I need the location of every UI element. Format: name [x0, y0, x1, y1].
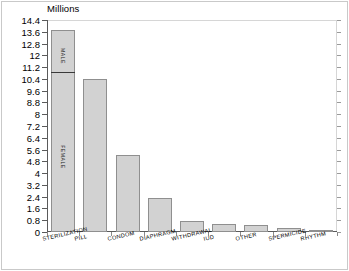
plot-top-rule — [47, 20, 337, 21]
y-tick-mark-right — [337, 185, 341, 186]
y-tick-mark — [42, 79, 47, 80]
y-tick-mark-right — [337, 67, 341, 68]
y-tick-mark-right — [337, 197, 341, 198]
y-tick-mark-right — [337, 79, 341, 80]
y-tick-mark — [42, 220, 47, 221]
y-tick-mark — [42, 161, 47, 162]
bar-sterilization: FEMALEMALE — [51, 30, 75, 232]
y-tick-mark — [42, 114, 47, 115]
y-tick-mark — [42, 185, 47, 186]
y-tick-label: 12.8 — [22, 38, 41, 49]
y-tick-label: 9.6 — [27, 85, 40, 96]
y-tick-mark — [42, 44, 47, 45]
y-axis-title: Millions — [47, 3, 79, 14]
x-label-iud: IUD — [203, 234, 215, 242]
y-tick-mark-right — [337, 138, 341, 139]
y-tick-mark-right — [337, 55, 341, 56]
y-tick-mark-right — [337, 173, 341, 174]
y-tick-label: 5.6 — [27, 144, 40, 155]
y-tick-mark — [42, 91, 47, 92]
y-tick-mark — [42, 126, 47, 127]
bar-chart-figure: Millions 00.81.62.43.244.85.66.47.288.89… — [0, 0, 349, 271]
bar-condom — [116, 155, 140, 232]
y-tick-label: 12 — [29, 50, 40, 61]
bar-iud — [212, 224, 236, 232]
y-tick-mark-right — [337, 44, 341, 45]
y-tick-mark — [42, 197, 47, 198]
y-tick-mark — [42, 55, 47, 56]
plot-area: 00.81.62.43.244.85.66.47.288.89.610.411.… — [47, 20, 337, 232]
bar-pill — [83, 79, 107, 232]
y-tick-label: 4.8 — [27, 156, 40, 167]
y-tick-label: 0.8 — [27, 215, 40, 226]
y-tick-mark — [42, 67, 47, 68]
y-tick-label: 0 — [35, 227, 40, 238]
y-tick-label: 8.8 — [27, 97, 40, 108]
x-tick-mark — [337, 232, 338, 236]
bar-diaphragm — [148, 198, 172, 232]
y-tick-mark — [42, 208, 47, 209]
y-tick-label: 3.2 — [27, 179, 40, 190]
y-tick-mark-right — [337, 208, 341, 209]
y-tick-mark — [42, 138, 47, 139]
y-tick-label: 6.4 — [27, 132, 40, 143]
y-tick-label: 8 — [35, 109, 40, 120]
y-tick-label: 11.2 — [22, 62, 40, 73]
y-tick-mark-right — [337, 161, 341, 162]
y-tick-label: 4 — [35, 168, 40, 179]
y-tick-mark-right — [337, 114, 341, 115]
y-tick-mark — [42, 173, 47, 174]
y-tick-mark — [42, 32, 47, 33]
y-tick-mark-right — [337, 20, 341, 21]
y-tick-label: 13.6 — [22, 26, 41, 37]
y-tick-mark — [42, 102, 47, 103]
y-axis-spine — [47, 20, 48, 232]
segment-label-male: MALE — [60, 48, 66, 64]
y-tick-mark-right — [337, 220, 341, 221]
y-tick-label: 10.4 — [22, 73, 41, 84]
segment-divider — [51, 72, 75, 74]
y-tick-mark-right — [337, 150, 341, 151]
y-tick-mark-right — [337, 91, 341, 92]
x-label-other: OTHER — [235, 231, 257, 242]
y-tick-mark-right — [337, 102, 341, 103]
y-tick-mark-right — [337, 126, 341, 127]
y-tick-mark — [42, 20, 47, 21]
y-tick-label: 14.4 — [22, 15, 41, 26]
y-tick-label: 7.2 — [27, 121, 40, 132]
y-tick-mark — [42, 150, 47, 151]
y-tick-label: 2.4 — [27, 191, 40, 202]
y-tick-mark-right — [337, 32, 341, 33]
x-label-pill: PILL — [74, 233, 88, 242]
segment-label-female: FEMALE — [60, 145, 66, 169]
y-tick-label: 1.6 — [27, 203, 40, 214]
bar-other — [244, 225, 268, 232]
